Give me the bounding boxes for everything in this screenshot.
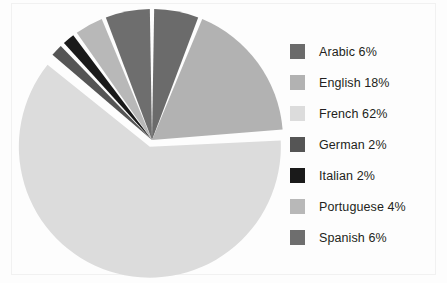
legend-item[interactable]: French 62% [290, 98, 440, 129]
legend-color-swatch [290, 44, 305, 59]
legend-item-label: German 2% [319, 138, 387, 152]
legend-color-swatch [290, 199, 305, 214]
pie-chart [8, 2, 283, 281]
legend-item-label: French 62% [319, 107, 387, 121]
legend-item-label: English 18% [319, 76, 390, 90]
legend-item[interactable]: Arabic 6% [290, 36, 440, 67]
chart-canvas: Arabic 6%English 18%French 62%German 2%I… [0, 0, 447, 283]
pie-slice-group [19, 9, 283, 278]
legend-color-swatch [290, 137, 305, 152]
legend-color-swatch [290, 106, 305, 121]
legend-item[interactable]: Portuguese 4% [290, 191, 440, 222]
legend-item-label: Arabic 6% [319, 45, 377, 59]
legend-item[interactable]: Spanish 6% [290, 222, 440, 253]
legend-item[interactable]: Italian 2% [290, 160, 440, 191]
legend-item-label: Italian 2% [319, 169, 375, 183]
legend-item[interactable]: English 18% [290, 67, 440, 98]
legend-item[interactable]: German 2% [290, 129, 440, 160]
legend-item-label: Spanish 6% [319, 231, 387, 245]
legend-color-swatch [290, 230, 305, 245]
chart-legend: Arabic 6%English 18%French 62%German 2%I… [290, 36, 440, 253]
legend-color-swatch [290, 75, 305, 90]
legend-color-swatch [290, 168, 305, 183]
legend-item-label: Portuguese 4% [319, 200, 406, 214]
pie-chart-svg [8, 2, 283, 281]
